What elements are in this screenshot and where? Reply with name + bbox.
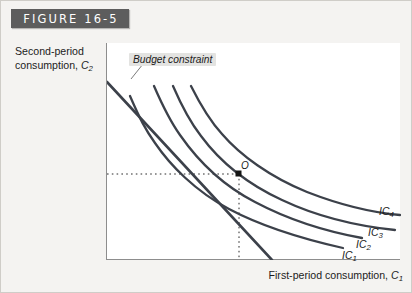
ic4-label: IC4 [379,206,394,219]
x-axis-title-text: First-period consumption, [269,269,391,281]
ic3-label: IC3 [368,227,383,240]
x-axis-title-symbol: C [391,269,399,281]
plot-svg [107,43,401,260]
optimum-point-label: O [241,160,249,171]
ic1-label-subscript: 1 [352,254,356,263]
ic4-label-subscript: 4 [389,210,393,219]
y-axis-title: Second-period consumption, C2 [15,45,107,75]
y-axis-title-subscript: 2 [89,64,93,73]
budget-constraint-label: Budget constraint [129,53,216,66]
x-axis-title-subscript: 1 [399,274,403,283]
optimum-point-marker [236,171,242,177]
plot-area [106,43,400,260]
ic2-label-name: IC [356,239,366,250]
y-axis-title-line2: consumption, [15,59,81,71]
indifference-curve-ic4 [191,86,400,215]
budget-constraint-line [107,82,272,260]
ic3-label-name: IC [368,227,378,238]
figure-container: FIGURE 16-5 Second-period consumption, C… [0,0,412,293]
y-axis-title-line1: Second-period [15,45,84,57]
ic1-label-name: IC [342,250,352,261]
ic2-label: IC2 [356,239,371,252]
x-axis-title: First-period consumption, C1 [191,269,403,283]
figure-number-label: FIGURE 16-5 [21,12,118,26]
ic3-label-subscript: 3 [378,231,382,240]
ic1-label: IC1 [342,250,357,263]
ic2-label-subscript: 2 [366,243,370,252]
y-axis-title-symbol: C [81,59,89,71]
ic4-label-name: IC [379,206,389,217]
indifference-curve-ic2 [154,86,362,238]
figure-number-banner: FIGURE 16-5 [11,9,129,28]
